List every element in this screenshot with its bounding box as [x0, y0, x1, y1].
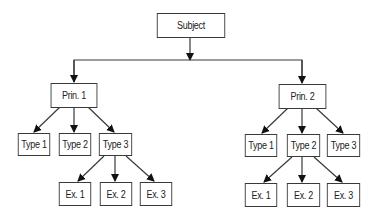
arrow-p2type2-ex1: [264, 157, 292, 182]
arrow-prin1-type3: [88, 107, 114, 132]
arrow-p2type2-ex3: [314, 157, 342, 182]
arrow-prin2-type3: [316, 108, 343, 133]
node-prin2-type-2: Type 2: [287, 134, 320, 157]
node-prin2-ex-3: Ex. 3: [327, 183, 360, 207]
node-prin1-ex-2: Ex. 2: [100, 182, 132, 206]
node-prin2-ex-2: Ex. 2: [287, 183, 320, 207]
tree-diagram: Subject Prin. 1 Prin. 2 Type 1 Type 2 Ty…: [0, 0, 378, 223]
node-prin2-ex-1: Ex. 1: [245, 183, 277, 207]
node-prin1-type-1: Type 1: [18, 133, 50, 156]
node-prin1-type-3: Type 3: [99, 133, 132, 156]
arrow-prin2-type1: [262, 108, 288, 133]
node-prin1-type-2: Type 2: [59, 133, 91, 156]
arrow-p1type3-ex1: [78, 156, 104, 181]
node-prin1-ex-1: Ex. 1: [59, 182, 91, 206]
arrow-p1type3-ex3: [126, 156, 154, 181]
node-prin1-ex-3: Ex. 3: [140, 182, 172, 206]
node-prin2-type-1: Type 1: [245, 134, 277, 157]
node-subject: Subject: [157, 13, 225, 38]
node-prin-2: Prin. 2: [279, 84, 327, 109]
node-prin2-type-3: Type 3: [327, 134, 360, 157]
node-prin-1: Prin. 1: [51, 83, 98, 108]
arrow-prin1-type1: [34, 107, 60, 132]
